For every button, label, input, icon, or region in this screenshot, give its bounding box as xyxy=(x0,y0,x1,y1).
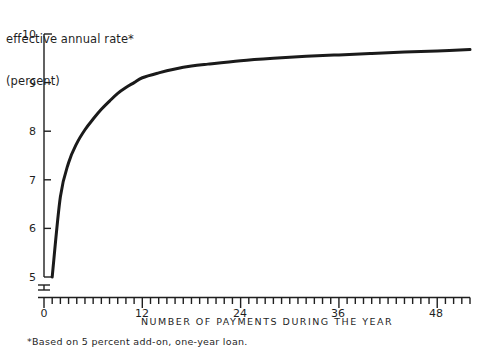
y-axis-break-icon xyxy=(38,285,50,290)
chart-page: effective annual rate* (percent) 10 9 8 … xyxy=(0,0,490,353)
x-axis-caption: NUMBER OF PAYMENTS DURING THE YEAR xyxy=(0,316,490,327)
y-axis-tick-labels: 10 9 8 7 6 5 xyxy=(22,28,36,284)
y-axis: 10 9 8 7 6 5 xyxy=(22,28,52,290)
y-tick-label-10: 10 xyxy=(22,28,36,41)
y-axis-ticks xyxy=(44,83,51,229)
y-tick-label-7: 7 xyxy=(29,174,36,187)
chart-footnote: *Based on 5 percent add-on, one-year loa… xyxy=(27,336,248,347)
y-tick-label-5: 5 xyxy=(29,271,36,284)
plot-area: 10 9 8 7 6 5 0 12 24 36 xyxy=(0,0,490,353)
y-tick-label-6: 6 xyxy=(29,222,36,235)
x-axis-minor-ticks xyxy=(52,298,470,305)
y-tick-label-8: 8 xyxy=(29,125,36,138)
y-tick-label-9: 9 xyxy=(29,77,36,90)
data-series-line xyxy=(52,50,470,277)
